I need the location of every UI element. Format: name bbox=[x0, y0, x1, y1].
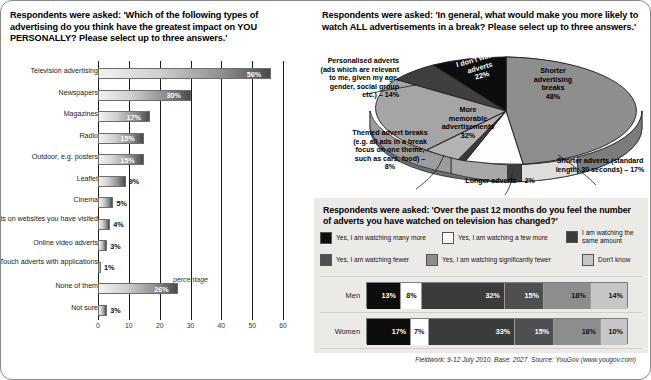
legend-item[interactable]: Yes, I am watching significantly fewer bbox=[426, 254, 576, 266]
legend-label: Yes, I am watching many more bbox=[336, 234, 426, 242]
pie-label-memorable: More memorable advertisements 32% bbox=[423, 106, 513, 140]
bar bbox=[98, 305, 107, 316]
legend-item[interactable]: Yes, I am watching fewer bbox=[320, 254, 440, 266]
x-tick-20: 20 bbox=[156, 322, 164, 329]
x-axis-title: percentage bbox=[98, 276, 283, 283]
divider bbox=[320, 348, 642, 349]
legend-swatch bbox=[442, 232, 454, 244]
bar-label: Leaflet bbox=[0, 175, 98, 183]
pie-callout-longer: Longer adverts – 2% bbox=[454, 177, 546, 186]
bar-value: 1% bbox=[104, 263, 114, 272]
bar-value: 3% bbox=[110, 242, 120, 251]
bar-value: 15% bbox=[120, 156, 134, 165]
segment-value: 18% bbox=[571, 291, 585, 300]
segment-value: 15% bbox=[524, 291, 538, 300]
bar-label: Radio bbox=[0, 132, 98, 140]
legend-swatch bbox=[582, 254, 594, 266]
legend-swatch bbox=[320, 232, 332, 244]
segment-value: 7% bbox=[414, 327, 424, 336]
legend-item[interactable]: I am watching the same amount bbox=[566, 229, 646, 244]
stack-segment: 18% bbox=[554, 319, 601, 345]
bar-label: Newspapers bbox=[0, 89, 98, 97]
bar-label: Television advertising bbox=[0, 67, 98, 75]
pie-chart-panel: Respondents were asked: 'In general, wha… bbox=[314, 1, 651, 197]
bar-value: 56% bbox=[247, 70, 261, 79]
bar-value: 5% bbox=[116, 199, 126, 208]
row-label: Men bbox=[324, 291, 360, 300]
left-question-text: Respondents were asked: 'Which of the fo… bbox=[10, 10, 306, 45]
bar-label: Banner adverts on websites you have visi… bbox=[0, 215, 98, 223]
legend-swatch bbox=[566, 231, 578, 243]
legend-label: I am watching the same amount bbox=[582, 229, 646, 244]
bar-label: Cinema bbox=[0, 196, 98, 204]
segment-value: 32% bbox=[485, 291, 499, 300]
stack-segment: 7% bbox=[411, 319, 429, 345]
stack-segment: 8% bbox=[401, 283, 422, 309]
pie-callout-personalised: Personalised adverts (ads which are rele… bbox=[317, 57, 399, 100]
stack-question-text: Respondents were asked: 'Over the past 1… bbox=[323, 205, 641, 227]
x-tick-30: 30 bbox=[187, 322, 195, 329]
segment-value: 18% bbox=[582, 327, 596, 336]
legend-label: Yes, I am watching a few more bbox=[458, 234, 548, 242]
x-tick-60: 60 bbox=[279, 322, 287, 329]
bar bbox=[98, 68, 271, 79]
bar-label: None of them bbox=[0, 282, 98, 290]
stacked-bar-panel: Respondents were asked: 'Over the past 1… bbox=[314, 198, 648, 353]
table-row: 17%7%33%15%18%10% bbox=[366, 318, 628, 344]
bar-value: 15% bbox=[120, 134, 134, 143]
bar bbox=[98, 197, 113, 208]
bar bbox=[98, 111, 150, 122]
stack-segment: 33% bbox=[429, 319, 515, 345]
bar-label: Online video adverts bbox=[0, 239, 98, 247]
pie-callout-themed: Themed advert breaks (e.g. all ads in a … bbox=[349, 129, 431, 172]
legend-label: Don't know bbox=[598, 256, 630, 264]
stack-segment: 18% bbox=[544, 283, 591, 309]
bar bbox=[98, 176, 126, 187]
legend-swatch bbox=[426, 254, 438, 266]
bar-value: 9% bbox=[129, 177, 139, 186]
bar-value: 3% bbox=[110, 306, 120, 315]
bar-chart-panel: Respondents were asked: 'Which of the fo… bbox=[1, 1, 313, 380]
segment-value: 10% bbox=[609, 327, 623, 336]
stack-segment: 14% bbox=[591, 283, 627, 309]
pie-question-text: Respondents were asked: 'In general, wha… bbox=[322, 10, 644, 33]
infographic-page: Respondents were asked: 'Which of the fo… bbox=[0, 0, 651, 380]
bar bbox=[98, 240, 107, 251]
legend-label: Yes, I am watching fewer bbox=[336, 256, 409, 264]
row-label: Women bbox=[324, 327, 360, 336]
stack-segment: 15% bbox=[515, 319, 554, 345]
bar-value: 17% bbox=[126, 113, 140, 122]
horizontal-bar-chart: 0102030405060Television advertising56%Ne… bbox=[1, 61, 313, 351]
bar-label: iPhone/iPad/iPod Touch adverts with appl… bbox=[0, 258, 98, 266]
stack-segment: 32% bbox=[422, 283, 505, 309]
stack-segment: 10% bbox=[601, 319, 627, 345]
divider bbox=[320, 276, 642, 277]
x-tick-10: 10 bbox=[125, 322, 133, 329]
segment-value: 15% bbox=[535, 327, 549, 336]
stack-segment: 15% bbox=[505, 283, 544, 309]
bar-label: Magazines bbox=[0, 110, 98, 118]
x-tick-40: 40 bbox=[218, 322, 226, 329]
bar-value: 30% bbox=[167, 91, 181, 100]
table-row: 13%8%32%15%18%14% bbox=[366, 282, 628, 308]
bar bbox=[98, 219, 110, 230]
pie-callout-shorter-adverts: Shorter adverts (standard length: 30 sec… bbox=[552, 157, 648, 174]
stack-segment: 13% bbox=[367, 283, 401, 309]
bar-label: Outdoor, e.g. posters bbox=[0, 153, 98, 161]
bar-label: Not sure bbox=[0, 304, 98, 312]
legend-item[interactable]: Yes, I am watching many more bbox=[320, 232, 440, 244]
bar bbox=[98, 262, 101, 273]
segment-value: 17% bbox=[392, 327, 406, 336]
segment-value: 8% bbox=[406, 291, 416, 300]
stack-segment: 17% bbox=[367, 319, 411, 345]
segment-value: 33% bbox=[496, 327, 510, 336]
legend-item[interactable]: Don't know bbox=[582, 254, 651, 266]
x-tick-0: 0 bbox=[96, 322, 100, 329]
legend-item[interactable]: Yes, I am watching a few more bbox=[442, 232, 562, 244]
legend-swatch bbox=[320, 254, 332, 266]
divider bbox=[320, 312, 642, 313]
source-footnote: Fieldwork: 9-12 July 2010. Base: 2027. S… bbox=[314, 356, 644, 363]
pie-label-shorter-breaks: Shorter advertising breaks 48% bbox=[510, 67, 596, 101]
segment-value: 14% bbox=[609, 291, 623, 300]
x-tick-50: 50 bbox=[248, 322, 256, 329]
